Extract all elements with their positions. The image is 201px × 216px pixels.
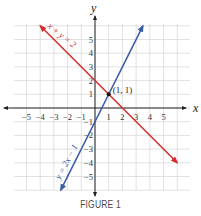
chart: xy −5−4−3−2−11234554321−1−2−3−4−5 x + y …: [0, 0, 201, 216]
svg-text:(1, 1): (1, 1): [113, 85, 133, 95]
x-axis-label: x: [192, 101, 199, 115]
svg-text:−5: −5: [22, 112, 31, 122]
svg-text:1: 1: [107, 112, 111, 122]
svg-text:−4: −4: [36, 112, 46, 122]
svg-text:−2: −2: [63, 112, 72, 122]
svg-text:−1: −1: [84, 117, 93, 127]
svg-text:1: 1: [89, 89, 93, 99]
svg-text:3: 3: [89, 62, 93, 72]
svg-text:5: 5: [161, 112, 165, 122]
svg-text:y = 2x − 1: y = 2x − 1: [52, 143, 79, 182]
figure-caption: FIGURE 1: [15, 199, 186, 210]
intersection-point: [107, 92, 111, 96]
y-axis-label: y: [90, 1, 97, 15]
axes: xy: [4, 1, 199, 196]
svg-text:4: 4: [148, 112, 153, 122]
svg-text:−3: −3: [84, 144, 93, 154]
svg-text:−3: −3: [49, 112, 58, 122]
svg-text:−4: −4: [84, 158, 94, 168]
svg-text:5: 5: [89, 35, 93, 45]
svg-text:2: 2: [120, 112, 124, 122]
svg-text:−5: −5: [84, 172, 93, 182]
